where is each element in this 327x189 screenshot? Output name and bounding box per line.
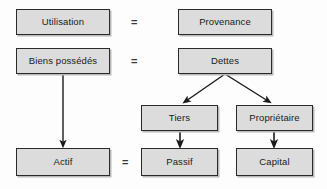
node-tiers[interactable]: Tiers — [141, 105, 218, 131]
node-passif-label: Passif — [166, 157, 192, 167]
node-tiers-label: Tiers — [169, 113, 190, 123]
edge-dettes-to-tiers — [186, 74, 225, 101]
node-capital[interactable]: Capital — [236, 148, 313, 176]
accounting-equation-diagram: Utilisation Provenance Biens possédés De… — [0, 0, 327, 189]
node-actif[interactable]: Actif — [16, 148, 110, 176]
edge-dettes-to-proprietaire — [225, 74, 268, 101]
node-utilisation[interactable]: Utilisation — [16, 9, 110, 35]
node-provenance[interactable]: Provenance — [178, 9, 272, 35]
node-proprietaire[interactable]: Propriétaire — [236, 105, 313, 131]
equals-sign-row-1: = — [131, 17, 137, 28]
node-dettes[interactable]: Dettes — [178, 48, 272, 74]
node-capital-label: Capital — [259, 157, 289, 167]
node-passif[interactable]: Passif — [141, 148, 218, 176]
node-utilisation-label: Utilisation — [42, 17, 84, 27]
equals-sign-row-2: = — [131, 56, 137, 67]
node-biens-possedes[interactable]: Biens possédés — [16, 48, 110, 74]
node-proprietaire-label: Propriétaire — [249, 113, 299, 123]
node-dettes-label: Dettes — [211, 56, 239, 66]
node-provenance-label: Provenance — [199, 17, 251, 27]
node-actif-label: Actif — [54, 157, 73, 167]
node-biens-possedes-label: Biens possédés — [29, 56, 97, 66]
equals-sign-row-3: = — [122, 157, 128, 168]
